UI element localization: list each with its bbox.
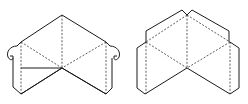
diagram-canvas xyxy=(0,0,248,104)
right-net-folds xyxy=(146,15,230,94)
left-net-cut-center xyxy=(21,68,106,94)
right-net-outline xyxy=(137,10,239,94)
right-net xyxy=(137,10,239,94)
left-net-outline xyxy=(13,15,112,94)
right-tab-curl-icon xyxy=(110,46,120,60)
left-net xyxy=(7,15,119,94)
left-tab-curl-icon xyxy=(7,46,17,60)
left-net-folds xyxy=(21,15,106,94)
folding-nets-diagram xyxy=(0,0,248,104)
